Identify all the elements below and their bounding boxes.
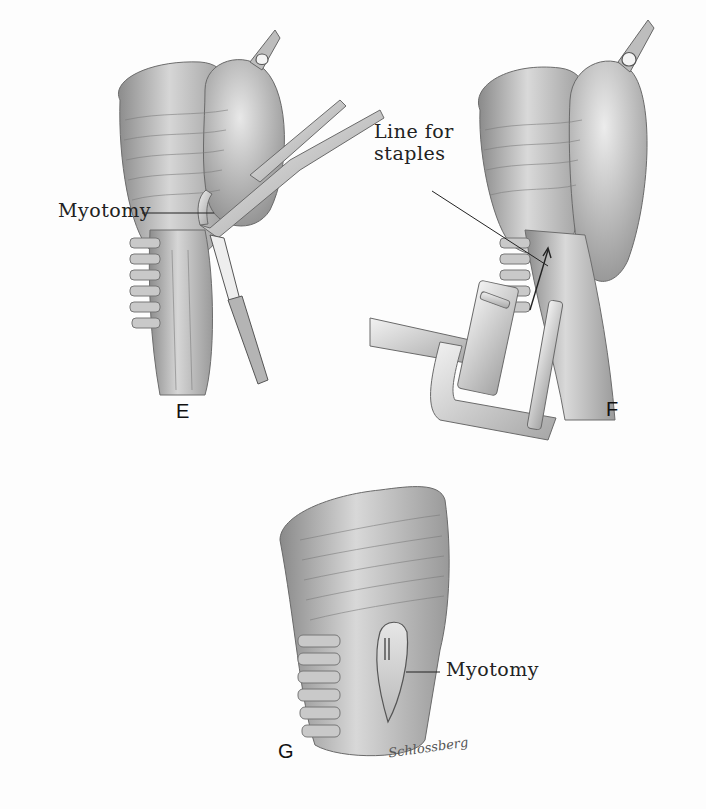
- panel-g: Myotomy G Schlossberg: [240, 460, 570, 800]
- staples-leader-line: [360, 0, 706, 450]
- myotomy-leader-line-e: [0, 0, 360, 440]
- panel-e: Myotomy E: [0, 0, 360, 440]
- panel-letter-g: G: [278, 740, 294, 763]
- panel-f: Line for staples F: [360, 0, 706, 450]
- myotomy-label-g: Myotomy: [446, 658, 539, 680]
- panel-letter-e: E: [176, 400, 189, 423]
- panel-letter-f: F: [606, 398, 618, 421]
- illustration-canvas: Myotomy E: [0, 0, 706, 809]
